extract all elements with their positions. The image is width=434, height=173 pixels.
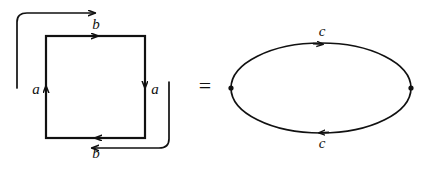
bigon-top-edge-label: c — [319, 23, 326, 39]
square-outline — [46, 36, 145, 138]
left-diagram-square: b b a a — [17, 13, 169, 161]
bigon-ellipse-outline — [231, 43, 411, 133]
square-top-edge-label: b — [92, 16, 100, 32]
square-left-edge-label: a — [32, 81, 40, 97]
square-bottom-edge-label: b — [92, 145, 100, 161]
bigon-bottom-edge-label: c — [319, 135, 326, 151]
figure-container: b b a a = c c — [0, 0, 434, 173]
bigon-right-vertex-dot — [408, 85, 413, 90]
top-identification-arc — [17, 13, 95, 88]
bigon-left-vertex-dot — [228, 85, 233, 90]
diagram-canvas: b b a a = c c — [0, 0, 434, 173]
bigon-top-edge-arrow — [313, 44, 323, 45]
equals-sign: = — [199, 73, 211, 98]
bigon-bottom-edge-arrow — [319, 132, 329, 133]
top-identification-arc-path — [17, 13, 95, 88]
square-right-edge-label: a — [151, 81, 159, 97]
right-diagram-bigon: c c — [228, 23, 413, 151]
